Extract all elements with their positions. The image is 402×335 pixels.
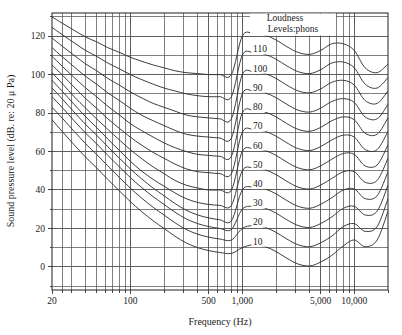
chart-canvas: 201005001,0005,00010,000 020406080100120…	[0, 0, 402, 335]
curve-label-text: 90	[253, 83, 263, 93]
curve-label-40-phon: 40	[252, 179, 266, 190]
x-tick-label: 10,000	[341, 296, 367, 306]
y-tick-label: 80	[36, 108, 46, 118]
y-tick-label: 60	[36, 147, 46, 157]
curve-label-90-phon: 90	[252, 82, 266, 93]
figure-background	[0, 0, 402, 335]
x-tick-label: 500	[201, 296, 216, 306]
curve-label-10-phon: 10	[252, 236, 266, 247]
curve-label-text: 50	[253, 160, 263, 170]
legend-title-line1: Loudness	[267, 13, 304, 23]
y-tick-label: 120	[31, 31, 46, 41]
curve-label-text: 30	[253, 198, 263, 208]
curve-label-100-phon: 100	[252, 63, 272, 74]
curve-label-80-phon: 80	[252, 102, 266, 113]
curve-label-70-phon: 70	[252, 121, 266, 132]
curve-label-20-phon: 20	[252, 217, 266, 228]
curve-label-50-phon: 50	[252, 159, 266, 170]
curve-label-text: 80	[253, 102, 263, 112]
x-tick-label: 1,000	[232, 296, 254, 306]
legend: Loudness Levels:phons	[250, 13, 336, 36]
y-axis-title: Sound pressure level (dB. re: 20 μ Pa)	[5, 75, 17, 228]
y-tick-label: 40	[36, 185, 46, 195]
curve-label-text: 70	[253, 121, 263, 131]
curve-label-text: 110	[253, 44, 267, 54]
x-tick-label: 20	[47, 296, 57, 306]
y-tick-label: 100	[31, 70, 46, 80]
equal-loudness-contour-figure: 201005001,0005,00010,000 020406080100120…	[0, 0, 402, 335]
x-tick-label: 100	[123, 296, 138, 306]
curve-label-60-phon: 60	[252, 140, 266, 151]
curve-label-text: 60	[253, 141, 263, 151]
y-tick-label: 0	[40, 262, 45, 272]
legend-title-line2: Levels:phons	[268, 24, 319, 34]
curve-label-text: 100	[253, 64, 268, 74]
x-axis-title: Frequency (Hz)	[188, 316, 251, 328]
curve-label-110-phon: 110	[252, 44, 272, 55]
curve-label-30-phon: 30	[252, 198, 266, 209]
x-tick-label: 5,000	[310, 296, 332, 306]
curve-label-text: 10	[253, 237, 263, 247]
curve-label-text: 20	[253, 217, 263, 227]
y-tick-label: 20	[36, 224, 46, 234]
curve-label-text: 40	[253, 179, 263, 189]
